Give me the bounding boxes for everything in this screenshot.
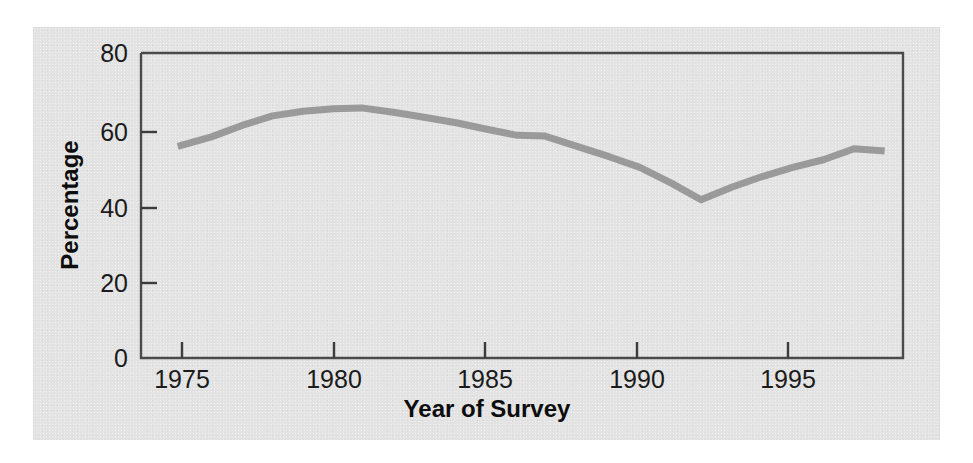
- line-chart: 80 60 40 20 0 1975 1980 1985 1990 1995 Y…: [0, 0, 973, 463]
- plot-frame: [141, 53, 903, 358]
- x-tick-label-1995: 1995: [760, 365, 816, 393]
- x-tick-label-1975: 1975: [154, 365, 210, 393]
- y-tick-label-60: 60: [100, 118, 128, 146]
- y-axis-ticks: [141, 53, 157, 358]
- x-tick-label-1990: 1990: [609, 365, 665, 393]
- figure-root: 80 60 40 20 0 1975 1980 1985 1990 1995 Y…: [0, 0, 973, 463]
- x-tick-label-1985: 1985: [457, 365, 513, 393]
- y-tick-label-0: 0: [114, 344, 128, 372]
- y-tick-label-80: 80: [100, 39, 128, 67]
- x-axis-labels: 1975 1980 1985 1990 1995: [154, 365, 816, 393]
- y-tick-label-40: 40: [100, 194, 128, 222]
- data-series-line: [178, 108, 885, 200]
- x-axis-ticks: [182, 342, 788, 358]
- y-axis-title: Percentage: [56, 140, 83, 269]
- x-tick-label-1980: 1980: [306, 365, 362, 393]
- x-axis-title: Year of Survey: [404, 395, 571, 422]
- y-axis-labels: 80 60 40 20 0: [100, 39, 128, 372]
- y-tick-label-20: 20: [100, 269, 128, 297]
- frame-outline: [141, 53, 903, 358]
